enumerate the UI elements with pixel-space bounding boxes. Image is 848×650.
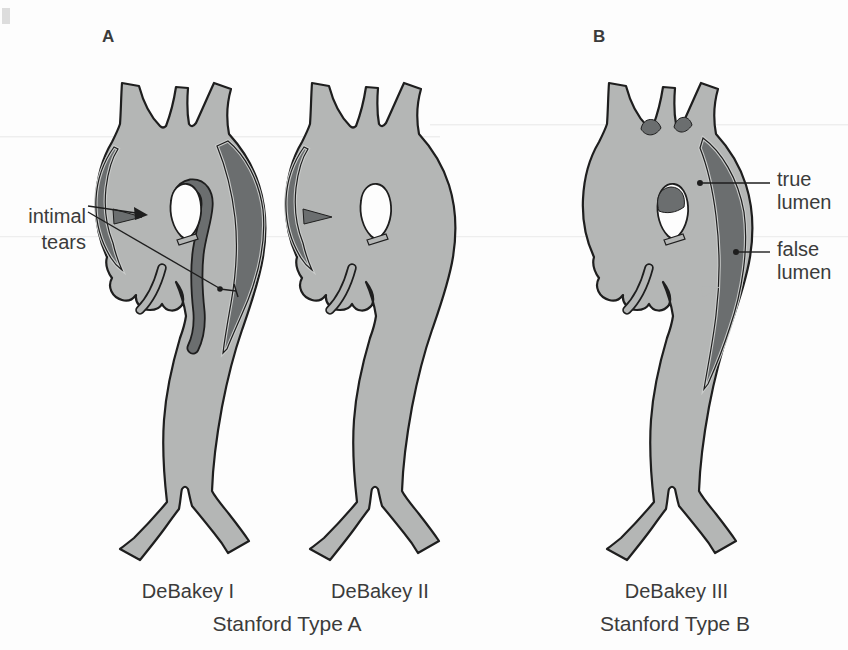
panel-a-label: A	[102, 27, 114, 47]
true-lumen-line2: lumen	[777, 191, 831, 214]
leader-dot	[733, 249, 739, 255]
aorta-debakey-ii	[286, 83, 455, 560]
true-lumen-line1: true	[777, 168, 831, 191]
false-lumen-line1: false	[777, 238, 831, 261]
caption-debakey-i: DeBakey I	[108, 579, 268, 603]
aorta-debakey-i	[96, 83, 265, 560]
panel-b-label: B	[593, 27, 605, 47]
aortic-dissection-figure: A B intimal tears true lumen false lumen…	[0, 0, 848, 650]
caption-debakey-iii: DeBakey III	[594, 579, 759, 603]
intimal-tears-line1: intimal	[0, 203, 86, 229]
true-lumen-label: true lumen	[777, 168, 831, 214]
false-lumen-line2: lumen	[777, 261, 831, 284]
scan-artifact	[2, 8, 10, 24]
aorta-debakey-iii	[583, 83, 752, 560]
caption-stanford-type-a: Stanford Type A	[164, 612, 410, 636]
aorta-silhouette	[286, 83, 455, 560]
intimal-tears-line2: tears	[0, 229, 86, 255]
caption-debakey-ii: DeBakey II	[300, 579, 460, 603]
arch-window-false-lumen-cap	[658, 187, 685, 213]
diagram-canvas	[0, 0, 848, 650]
false-lumen-label: false lumen	[777, 238, 831, 284]
caption-stanford-type-b: Stanford Type B	[552, 612, 798, 636]
intimal-tears-label: intimal tears	[0, 203, 86, 255]
leader-dot	[697, 180, 703, 186]
